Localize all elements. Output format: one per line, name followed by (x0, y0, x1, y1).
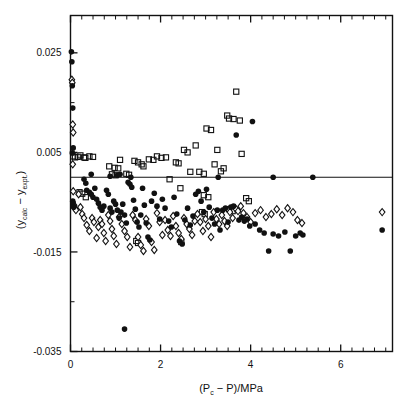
marker-filled-circle (124, 220, 130, 226)
marker-filled-circle (231, 203, 237, 209)
y-title-close: ) (14, 171, 26, 175)
marker-filled-circle (128, 174, 134, 180)
marker-filled-circle (71, 204, 77, 210)
marker-filled-circle (266, 248, 272, 254)
marker-filled-circle (120, 201, 126, 207)
marker-filled-circle (212, 221, 218, 227)
marker-filled-circle (209, 215, 215, 221)
marker-filled-circle (270, 231, 276, 237)
marker-filled-circle (160, 196, 166, 202)
marker-filled-circle (182, 217, 188, 223)
marker-filled-circle (88, 171, 94, 177)
marker-filled-circle (131, 197, 137, 203)
y-title-subscript-calc: calc (21, 207, 28, 220)
marker-filled-circle (70, 150, 76, 156)
marker-filled-circle (187, 222, 193, 228)
plot-canvas: 0246 0.0250.005-0.015-0.035 (Pc − P)/MPa… (0, 0, 414, 409)
marker-filled-circle (190, 213, 196, 219)
marker-filled-circle (185, 205, 191, 211)
x-tick-label: 6 (338, 359, 344, 370)
y-tick-label: -0.015 (33, 247, 62, 258)
marker-filled-circle (151, 190, 157, 196)
marker-filled-circle (116, 215, 122, 221)
marker-filled-circle (270, 174, 276, 180)
marker-filled-circle (217, 227, 223, 233)
x-tick-label: 0 (68, 359, 74, 370)
marker-filled-circle (174, 211, 180, 217)
marker-filled-circle (300, 232, 306, 238)
marker-filled-circle (276, 233, 282, 239)
marker-filled-circle (69, 59, 75, 65)
marker-filled-circle (143, 220, 149, 226)
residual-scatter-figure: 0246 0.0250.005-0.015-0.035 (Pc − P)/MPa… (0, 0, 414, 409)
marker-filled-circle (225, 219, 231, 225)
x-title-open: (P (199, 382, 210, 394)
marker-filled-circle (149, 198, 155, 204)
x-axis-title: (Pc − P)/MPa (199, 382, 264, 396)
marker-filled-circle (92, 185, 98, 191)
marker-filled-circle (107, 173, 113, 179)
marker-filled-circle (69, 49, 75, 55)
marker-filled-circle (169, 224, 175, 230)
marker-filled-circle (282, 229, 288, 235)
marker-filled-circle (113, 201, 119, 207)
y-tick-label: 0.025 (36, 47, 61, 58)
marker-filled-circle (154, 203, 160, 209)
marker-filled-circle (179, 241, 185, 247)
svg-text:(Pc − P)/MPa: (Pc − P)/MPa (199, 382, 264, 396)
marker-filled-circle (134, 219, 140, 225)
marker-filled-circle (206, 204, 212, 210)
marker-filled-circle (250, 119, 256, 125)
x-tick-label: 4 (248, 359, 254, 370)
y-tick-label: -0.035 (33, 346, 62, 357)
marker-filled-circle (106, 191, 112, 197)
marker-filled-circle (109, 209, 115, 215)
x-tick-label: 2 (158, 359, 164, 370)
marker-filled-circle (136, 224, 142, 230)
x-title-rest: − P)/MPa (214, 382, 264, 394)
marker-filled-circle (310, 174, 316, 180)
marker-filled-circle (247, 223, 253, 229)
marker-filled-circle (204, 186, 210, 192)
marker-filled-circle (166, 218, 172, 224)
marker-filled-circle (117, 171, 123, 177)
marker-filled-circle (70, 105, 76, 111)
marker-filled-circle (142, 202, 148, 208)
marker-filled-circle (215, 174, 221, 180)
y-title-subscript-expt: expt. (21, 174, 29, 189)
y-title-mid: − y (14, 189, 26, 208)
marker-filled-circle (233, 132, 239, 138)
marker-filled-circle (147, 237, 153, 243)
marker-filled-circle (140, 185, 146, 191)
marker-filled-circle (287, 248, 293, 254)
marker-filled-circle (157, 216, 163, 222)
marker-filled-circle (129, 184, 135, 190)
marker-filled-circle (122, 326, 128, 332)
marker-filled-circle (244, 216, 250, 222)
marker-filled-circle (215, 207, 221, 213)
marker-filled-circle (70, 145, 76, 151)
marker-filled-circle (133, 206, 139, 212)
marker-filled-circle (122, 212, 128, 218)
marker-filled-circle (70, 83, 76, 89)
marker-filled-circle (223, 205, 229, 211)
marker-filled-circle (138, 212, 144, 218)
y-tick-label: 0.005 (36, 147, 61, 158)
marker-filled-circle (252, 221, 258, 227)
marker-filled-circle (171, 194, 177, 200)
marker-filled-circle (162, 205, 168, 211)
marker-filled-circle (196, 188, 202, 194)
marker-filled-circle (101, 203, 107, 209)
marker-filled-circle (201, 209, 207, 215)
marker-filled-circle (379, 227, 385, 233)
marker-filled-circle (198, 198, 204, 204)
marker-filled-circle (261, 230, 267, 236)
marker-filled-circle (83, 180, 89, 186)
